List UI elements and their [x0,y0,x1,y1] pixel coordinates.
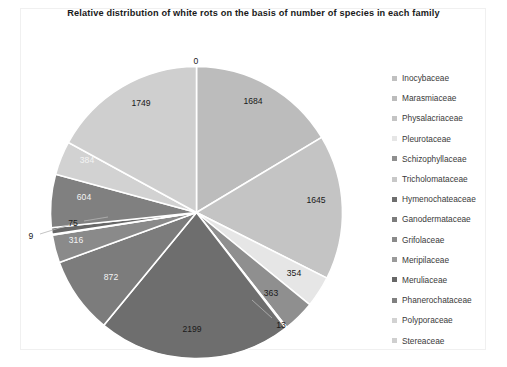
legend-item-label: Hymenochateaceae [402,194,476,204]
legend-swatch-icon [392,96,397,101]
legend-item[interactable]: Phanerochataceae [392,290,502,310]
legend-swatch-icon [392,217,397,222]
legend-item-label: Tricholomataceae [402,174,468,184]
legend-item[interactable]: Stereaceae [392,330,502,350]
legend-swatch-icon [392,257,397,262]
legend-item-label: Ganodermataceae [402,214,471,224]
legend-swatch-icon [392,298,397,303]
legend-item-label: Physalacriaceae [402,113,463,123]
legend-item-label: Marasmiaceae [402,93,456,103]
legend-item-label: Inocybaceae [402,73,449,83]
legend-swatch-icon [392,116,397,121]
legend-item-label: Schizophyllaceae [402,154,467,164]
legend-item[interactable]: Meruliaceae [392,270,502,290]
legend-item-label: Phanerochataceae [402,295,472,305]
legend-item[interactable]: Schizophyllaceae [392,149,502,169]
legend-item-label: Grifolaceae [402,235,444,245]
legend-item-label: Polyporaceae [402,315,453,325]
legend-swatch-icon [392,237,397,242]
legend-swatch-icon [392,177,397,182]
legend-swatch-icon [392,338,397,343]
legend-item[interactable]: Physalacriaceae [392,108,502,128]
legend-item[interactable]: Hymenochateaceae [392,189,502,209]
legend-item[interactable]: Marasmiaceae [392,88,502,108]
legend-swatch-icon [392,76,397,81]
legend-item[interactable]: Grifolaceae [392,230,502,250]
legend-item[interactable]: Polyporaceae [392,310,502,330]
chart-legend: InocybaceaeMarasmiaceaePhysalacriaceaePl… [392,68,502,351]
legend-swatch-icon [392,277,397,282]
legend-swatch-icon [392,197,397,202]
legend-item[interactable]: Inocybaceae [392,68,502,88]
legend-swatch-icon [392,136,397,141]
legend-item-label: Meripilaceae [402,255,449,265]
legend-swatch-icon [392,318,397,323]
legend-item-label: Pleurotaceae [402,134,451,144]
legend-item[interactable]: Tricholomataceae [392,169,502,189]
legend-item[interactable]: Pleurotaceae [392,129,502,149]
legend-swatch-icon [392,156,397,161]
legend-item[interactable]: Ganodermataceae [392,209,502,229]
legend-item-label: Meruliaceae [402,275,447,285]
legend-item-label: Stereaceae [402,336,444,346]
legend-item[interactable]: Meripilaceae [392,250,502,270]
